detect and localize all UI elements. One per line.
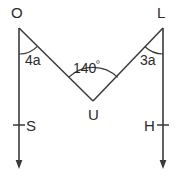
- geometry-canvas: [0, 0, 176, 176]
- point-label-h: H: [144, 118, 155, 133]
- angle-label-4a: 4a: [25, 53, 41, 67]
- arrowhead-right-ray-icon: [160, 160, 167, 169]
- vertex-label-u: U: [88, 107, 99, 122]
- geometry-figure: O L U S H 4a 3a 140º: [0, 0, 176, 176]
- point-label-s: S: [26, 118, 36, 133]
- degree-symbol-icon: º: [96, 59, 99, 69]
- vertex-label-l: L: [157, 5, 165, 20]
- angle-label-3a-text: 3a: [140, 52, 156, 68]
- arrowhead-left-ray-icon: [16, 160, 23, 169]
- angle-label-140-degrees: 140º: [73, 60, 100, 75]
- angle-value-140: 140: [73, 60, 96, 76]
- angle-label-3a: 3a: [140, 53, 156, 67]
- vertex-label-o: O: [11, 5, 23, 20]
